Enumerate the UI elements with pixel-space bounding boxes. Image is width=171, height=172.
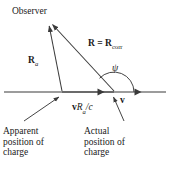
caption-apparent-line-1: Apparent [3, 126, 44, 137]
physics-diagram: Observer Ra R = Rcorr ψ vRa/c v Apparent… [0, 0, 171, 172]
caption-apparent-position: Apparent position of charge [3, 126, 44, 158]
label-Ra-subscript: a [35, 60, 38, 67]
label-Rcorr-subscript: corr [112, 43, 123, 50]
caption-actual-line-3: charge [84, 147, 125, 158]
psi-angle-arc [100, 72, 135, 92]
caption-apparent-line-3: charge [3, 147, 44, 158]
label-displacement-vRa-over-c: vRa/c [72, 96, 93, 116]
label-R-equals-Rcorr: R = Rcorr [88, 38, 123, 50]
leader-arrow-apparent [24, 97, 59, 121]
caption-actual-line-2: position of [84, 137, 125, 148]
vector-Ra [49, 26, 62, 91]
label-observer: Observer [12, 6, 47, 17]
caption-actual-position: Actual position of charge [84, 126, 125, 158]
axis-arrowhead-right [135, 89, 142, 96]
label-displacement-over-c: /c [86, 102, 93, 112]
label-psi-angle: ψ [112, 62, 118, 73]
label-velocity-v: v [120, 95, 125, 106]
label-R-lhs: R [88, 38, 95, 48]
caption-actual-line-1: Actual [84, 126, 125, 137]
label-Ra-base: R [28, 55, 35, 65]
label-R-equals-sign: = [95, 38, 105, 48]
caption-apparent-line-2: position of [3, 137, 44, 148]
vector-R-corr [53, 25, 115, 92]
label-Rcorr-base: R [105, 38, 112, 48]
label-Ra: Ra [28, 55, 38, 67]
